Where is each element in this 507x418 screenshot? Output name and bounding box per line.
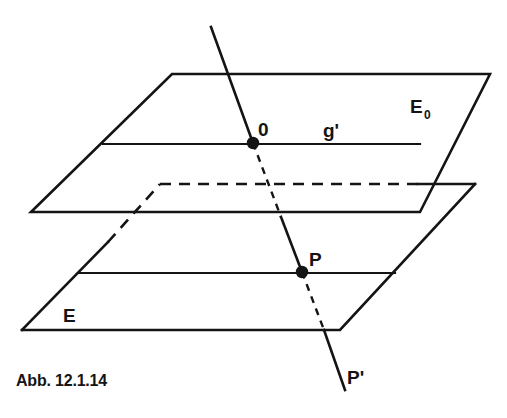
label-point-P: P <box>309 249 322 270</box>
transversal-segment-hidden-between-planes <box>253 143 281 217</box>
transversal-segment-above-upper-plane <box>211 27 253 143</box>
figure-caption: Abb. 12.1.14 <box>16 372 107 390</box>
lower-plane-front-edges-visible <box>22 184 475 330</box>
label-lower-plane: E <box>63 305 76 326</box>
figure-container: E 0 0 g' P E P' Abb. 12.1.14 <box>0 0 507 418</box>
label-upper-plane: E <box>410 96 423 117</box>
point-P-marker <box>296 266 308 278</box>
label-point-P-prime: P' <box>347 367 364 388</box>
transversal-segment-to-P-prime <box>324 330 345 390</box>
transversal-segment-visible-to-P <box>281 217 302 272</box>
lower-plane-group <box>22 184 475 330</box>
label-point-0: 0 <box>258 119 269 140</box>
transversal-line-group <box>211 27 345 390</box>
transversal-segment-hidden-below-P <box>302 272 324 330</box>
label-line-g-prime: g' <box>323 120 339 141</box>
geometry-diagram: E 0 0 g' P E P' <box>0 0 507 418</box>
label-upper-plane-subscript: 0 <box>424 108 431 122</box>
